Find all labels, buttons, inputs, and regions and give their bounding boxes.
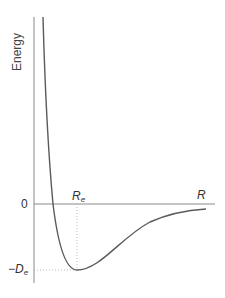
- re-label-sub: e: [81, 195, 85, 204]
- re-label-main: R: [72, 189, 81, 203]
- potential-energy-chart: [0, 0, 225, 298]
- re-label: Re: [72, 190, 85, 204]
- x-axis-label: R: [197, 189, 206, 201]
- energy-curve: [43, 17, 206, 270]
- de-label: −De: [8, 263, 28, 277]
- zero-tick-label: 0: [21, 198, 28, 210]
- y-axis-label: Energy: [10, 33, 24, 71]
- de-label-sub: e: [24, 268, 28, 277]
- de-label-main: −D: [8, 262, 24, 276]
